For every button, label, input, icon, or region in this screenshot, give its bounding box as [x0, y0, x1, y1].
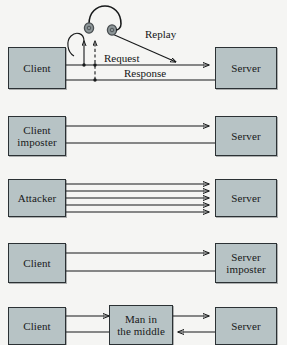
node-label: Client: [21, 62, 53, 74]
headphones-icon: [84, 6, 121, 35]
node-server-row3[interactable]: Server: [215, 179, 277, 217]
label-request: Request: [104, 52, 139, 64]
node-label-line1: Man in: [123, 313, 159, 325]
node-label-line2: the middle: [115, 325, 167, 337]
node-label: Client: [21, 320, 53, 332]
node-label-line1: Server: [229, 251, 262, 263]
node-man-in-the-middle[interactable]: Man in the middle: [109, 305, 173, 345]
node-label-line1: Client: [21, 124, 53, 136]
node-label: Server: [229, 320, 262, 332]
node-server-row5[interactable]: Server: [215, 307, 277, 345]
node-label: Attacker: [16, 192, 59, 204]
node-client-imposter[interactable]: Client imposter: [8, 116, 66, 156]
diagram-canvas: Client Server Request Response Replay Cl…: [0, 0, 287, 345]
node-label: Client: [21, 257, 53, 269]
label-replay: Replay: [145, 28, 176, 40]
node-label-line2: imposter: [15, 136, 58, 148]
label-response: Response: [124, 67, 166, 79]
node-label: Server: [229, 130, 262, 142]
node-client-row5[interactable]: Client: [8, 307, 66, 345]
node-attacker[interactable]: Attacker: [8, 179, 66, 217]
node-label: Server: [229, 192, 262, 204]
node-client-row1[interactable]: Client: [8, 47, 66, 89]
node-server-row1[interactable]: Server: [215, 47, 277, 89]
node-server-row2[interactable]: Server: [215, 116, 277, 156]
node-client-row4[interactable]: Client: [8, 243, 66, 283]
node-label-line2: imposter: [224, 263, 267, 275]
node-label: Server: [229, 62, 262, 74]
node-server-imposter[interactable]: Server imposter: [215, 243, 277, 283]
